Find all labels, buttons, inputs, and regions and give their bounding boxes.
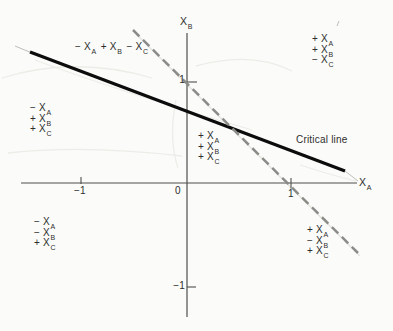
region-label-top-right: + XA+ XB− XC [312,34,333,66]
sign-term: + XB [101,41,122,52]
region-label-bottom-left: − XA− XB+ XC [34,217,55,249]
region-label-bottom-right: + XA− XB+ XC [307,225,328,257]
plot-canvas [0,0,393,331]
x-tick-label-pos1: 1 [288,188,294,200]
critical-line-label: Critical line [296,134,348,146]
x-axis-label-sub: A [367,184,372,191]
x-axis-label: XA [359,176,371,188]
sign-term: − XC [127,41,148,52]
x-tick-label-neg1: −1 [74,185,86,197]
y-axis-label: XB [180,15,192,27]
y-tick-label-neg1: −1 [167,280,185,292]
y-axis-label-sub: B [188,23,193,30]
critical-line-diagram: XB XA −1 0 1 1 −1 − XA+ XB− XC + XA+ XB−… [0,0,393,331]
region-label-upper-inline: − XA+ XB− XC [75,41,153,53]
region-label-left: − XA+ XB+ XC [30,103,51,135]
sign-term: − XA [75,41,96,52]
critical-line-lead-in [15,46,32,53]
x-tick-label-0: 0 [175,185,181,197]
x-axis-label-var: X [359,176,366,188]
scan-smudge [172,100,178,168]
scan-speck [337,21,339,26]
y-axis-label-var: X [180,15,187,27]
region-label-center: + XA+ XB+ XC [198,131,219,163]
scan-smudge [196,59,292,71]
y-tick-label-pos1: 1 [170,74,185,86]
scan-smudge [8,149,182,156]
